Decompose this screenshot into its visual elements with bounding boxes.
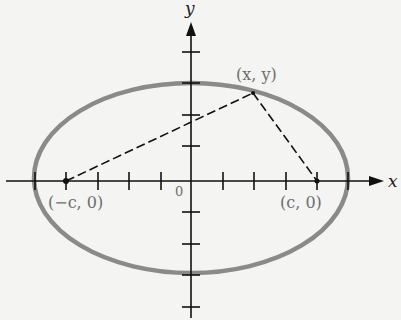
focus-right-label: (c, 0) xyxy=(280,193,322,212)
focus-left-point xyxy=(63,178,69,184)
dashed-line-left-focus xyxy=(66,93,253,181)
focus-right-point xyxy=(315,179,320,184)
x-axis-arrow-icon xyxy=(369,176,384,186)
focus-left-label: (−c, 0) xyxy=(48,193,103,212)
y-axis-arrow-icon xyxy=(186,22,196,36)
origin-label: 0 xyxy=(175,184,183,199)
y-axis-label: y xyxy=(184,0,195,18)
curve-point xyxy=(251,91,255,95)
point-label: (x, y) xyxy=(236,65,277,84)
ellipse-diagram: x y 0 (−c, 0) (c, 0) (x, y) xyxy=(0,0,401,320)
dashed-line-right-focus xyxy=(253,93,317,181)
x-axis-label: x xyxy=(388,171,398,191)
